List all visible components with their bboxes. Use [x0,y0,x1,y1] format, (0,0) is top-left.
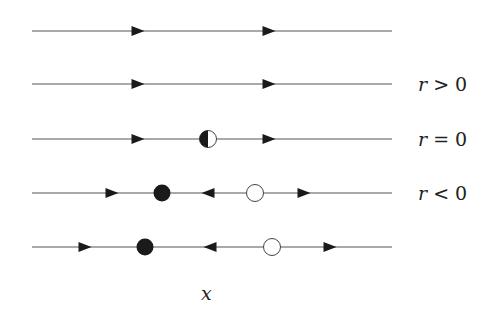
label-r-positive: r > 0 [418,75,467,94]
label-r-positive-var: r [418,73,427,95]
phase-line-row-3 [32,131,392,148]
arrow-left-icon [204,242,217,252]
arrow-right-icon [132,26,145,36]
half-stable-fixed-point-icon [200,131,217,148]
unstable-fixed-point-icon [264,239,281,256]
stable-fixed-point-icon [154,185,171,202]
arrow-right-icon [106,188,119,198]
arrow-left-icon [202,188,215,198]
label-r-zero-var: r [418,128,427,150]
axis-label-x-text: x [201,282,212,304]
label-r-positive-rel: > 0 [433,73,467,95]
arrow-right-icon [324,242,337,252]
arrow-right-icon [132,79,145,89]
phase-lines-canvas [0,0,488,325]
arrow-right-icon [263,26,276,36]
phase-line-row-4 [32,185,392,202]
phase-portrait-figure: r > 0 r = 0 r < 0 x [0,0,488,325]
arrow-right-icon [263,79,276,89]
axis-label-x: x [201,284,212,303]
arrow-right-icon [132,134,145,144]
label-r-zero: r = 0 [418,130,467,149]
phase-line-row-5 [32,239,392,256]
phase-line-row-2 [32,79,392,89]
label-r-negative: r < 0 [418,184,467,203]
label-r-negative-var: r [418,182,427,204]
unstable-fixed-point-icon [247,185,264,202]
stable-fixed-point-icon [137,239,154,256]
label-r-zero-rel: = 0 [433,128,467,150]
phase-line-row-1 [32,26,392,36]
arrow-right-icon [298,188,311,198]
arrow-right-icon [79,242,92,252]
arrow-right-icon [263,134,276,144]
label-r-negative-rel: < 0 [433,182,467,204]
